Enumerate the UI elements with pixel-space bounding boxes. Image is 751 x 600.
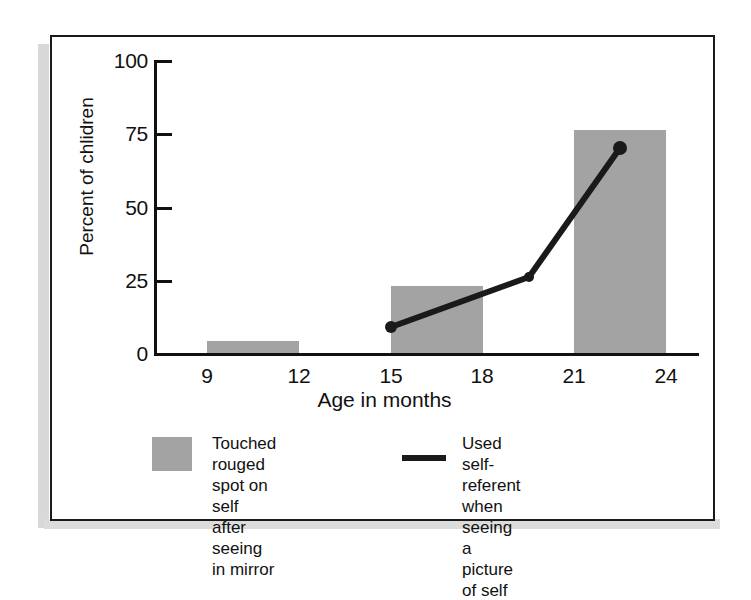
line-point-15: [385, 321, 397, 333]
figure-shadow-left: [38, 44, 49, 528]
line-point-22-5: [613, 141, 627, 155]
legend-item-bar-label: Touched rouged spot on self after seeing…: [212, 433, 276, 580]
legend-bar-swatch-icon: [152, 437, 192, 471]
legend-item-line-label: Used self-referent when seeing a picture…: [462, 433, 521, 600]
chart-legend: Touched rouged spot on self after seeing…: [52, 433, 717, 517]
figure-frame: 100 75 50 25 0 9 12 15 18 21 24 Percent …: [50, 35, 715, 521]
line-path: [391, 148, 620, 327]
line-point-19-5: [524, 272, 534, 282]
legend-line-swatch-icon: [402, 455, 446, 461]
